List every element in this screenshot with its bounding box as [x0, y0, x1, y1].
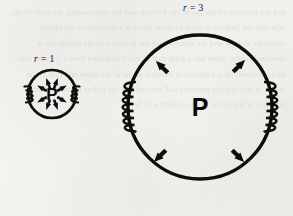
pressure-arrow-outward: [230, 57, 248, 75]
radius-label-small: r = 1: [34, 54, 55, 64]
pressure-arrow-outward: [153, 58, 171, 76]
pressure-label-large: P: [192, 95, 209, 120]
radius-label-large: r = 3: [183, 3, 204, 13]
radius-value-small: 1: [49, 54, 54, 64]
radius-equals-large: =: [187, 3, 198, 13]
radius-value-large: 3: [198, 3, 203, 13]
diagram-canvas: [0, 0, 293, 216]
pressure-label-small: P: [46, 86, 57, 103]
radius-equals-small: =: [38, 54, 49, 64]
scanned-figure: and the pressure of the gas in the ballo…: [0, 0, 293, 216]
